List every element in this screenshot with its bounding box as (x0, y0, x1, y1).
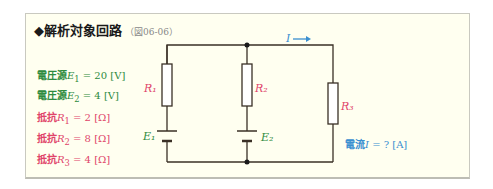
junction-top (245, 43, 250, 48)
label-e2: E₂ (260, 131, 273, 144)
current-arrow-icon (293, 36, 311, 42)
result-current: 電流I = ? [A] (345, 136, 407, 151)
battery-e1 (157, 131, 177, 141)
circuit-diagram: R₁ R₂ R₃ E₁ E₂ I (0, 0, 493, 189)
battery-e2 (237, 131, 257, 141)
label-r1: R₁ (143, 82, 157, 95)
label-e1: E₁ (142, 130, 155, 143)
resistor-r3 (328, 83, 338, 124)
junction-bottom (245, 160, 250, 165)
resistor-r2 (242, 64, 252, 106)
label-r2: R₂ (254, 82, 268, 95)
label-r3: R₃ (340, 100, 354, 113)
label-current: I (285, 32, 291, 45)
resistor-r1 (162, 64, 172, 106)
